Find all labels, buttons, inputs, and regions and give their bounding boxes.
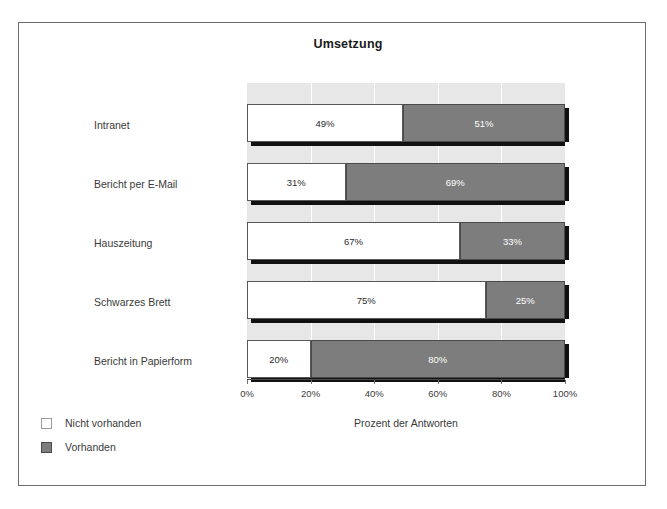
bar-segment-vorhanden[interactable]: 25%	[486, 281, 566, 319]
bar-segment-nicht-vorhanden[interactable]: 67%	[247, 222, 460, 260]
x-axis-title: Prozent der Antworten	[247, 417, 565, 429]
category-label-2: Hauszeitung	[94, 237, 259, 249]
bar-shadow-right	[565, 226, 569, 260]
bar-segment-vorhanden[interactable]: 69%	[346, 163, 565, 201]
chart-frame: Umsetzung Intranet Bericht per E-Mail Ha…	[18, 22, 646, 486]
bar-segment-vorhanden[interactable]: 51%	[403, 104, 565, 142]
category-label-3: Schwarzes Brett	[94, 296, 259, 308]
legend-item-vorhanden[interactable]: Vorhanden	[41, 435, 141, 459]
chart-legend: Nicht vorhanden Vorhanden	[41, 411, 141, 459]
bar-segment-nicht-vorhanden[interactable]: 75%	[247, 281, 486, 319]
bar-segment-nicht-vorhanden[interactable]: 31%	[247, 163, 346, 201]
x-axis-tick-label: 60%	[428, 388, 447, 399]
plot-area: 49% 51% 31% 69% 67% 33% 75% 25% 20% 80%	[247, 83, 565, 379]
bar-row: 75% 25%	[247, 281, 565, 319]
x-axis-tick-label: 80%	[492, 388, 511, 399]
chart-title-text: Umsetzung	[313, 37, 382, 51]
bar-segment-vorhanden[interactable]: 80%	[311, 340, 565, 378]
bar-row: 20% 80%	[247, 340, 565, 378]
category-label-4: Bericht in Papierform	[94, 355, 259, 367]
bar-shadow	[251, 319, 565, 323]
bar-shadow	[251, 201, 565, 205]
category-label-1: Bericht per E-Mail	[94, 178, 259, 190]
x-axis-tick	[565, 380, 566, 384]
legend-item-nicht-vorhanden[interactable]: Nicht vorhanden	[41, 411, 141, 435]
x-axis-tick	[438, 380, 439, 384]
bar-segment-nicht-vorhanden[interactable]: 20%	[247, 340, 311, 378]
bar-shadow-right	[565, 108, 569, 142]
x-axis-tick	[311, 380, 312, 384]
x-axis-tick	[374, 380, 375, 384]
bar-row: 67% 33%	[247, 222, 565, 260]
x-axis-tick-label: 40%	[365, 388, 384, 399]
chart-title: Umsetzung	[19, 37, 645, 51]
bar-row: 31% 69%	[247, 163, 565, 201]
bar-segment-vorhanden[interactable]: 33%	[460, 222, 565, 260]
legend-swatch-icon	[41, 418, 52, 429]
bar-shadow	[251, 142, 565, 146]
x-axis-tick-label: 20%	[301, 388, 320, 399]
bar-shadow-right	[565, 167, 569, 201]
x-axis-line	[247, 379, 565, 380]
x-axis-tick-label: 0%	[240, 388, 254, 399]
x-axis-tick	[501, 380, 502, 384]
bar-row: 49% 51%	[247, 104, 565, 142]
legend-swatch-icon	[41, 442, 52, 453]
bar-shadow	[251, 260, 565, 264]
bar-shadow-right	[565, 344, 569, 378]
category-label-0: Intranet	[94, 119, 259, 131]
legend-label: Nicht vorhanden	[65, 417, 141, 429]
bar-segment-nicht-vorhanden[interactable]: 49%	[247, 104, 403, 142]
legend-label: Vorhanden	[65, 441, 116, 453]
x-axis-tick	[247, 380, 248, 384]
x-axis-tick-label: 100%	[553, 388, 577, 399]
bar-shadow-right	[565, 285, 569, 319]
